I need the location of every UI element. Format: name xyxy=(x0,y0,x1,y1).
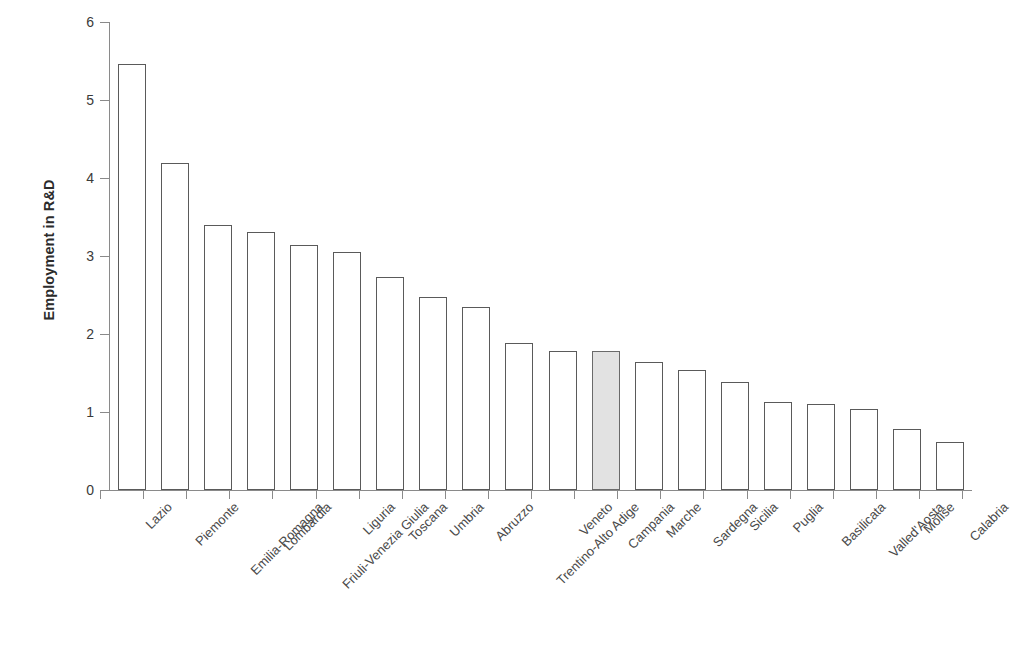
y-axis-tick xyxy=(100,178,109,179)
bar-puglia[interactable] xyxy=(764,402,792,490)
x-axis-tick xyxy=(747,491,748,499)
bar-calabria[interactable] xyxy=(936,442,964,490)
bar-sardegna[interactable] xyxy=(678,370,706,490)
x-axis-label-calabria: Calabria xyxy=(967,500,1010,543)
x-axis-tick xyxy=(186,491,187,499)
x-axis-tick xyxy=(445,491,446,499)
y-axis-tick xyxy=(100,256,109,257)
y-axis-tick xyxy=(100,100,109,101)
bar-campania[interactable] xyxy=(592,351,620,490)
chart-figure: Employment in R&D 0123456 LazioPiemonteE… xyxy=(0,0,1024,649)
plot-area xyxy=(110,22,972,490)
y-axis-tick-label: 4 xyxy=(70,171,94,185)
x-axis-label-puglia: Puglia xyxy=(791,500,826,535)
x-axis-tick xyxy=(229,491,230,499)
bar-emilia-romagna[interactable] xyxy=(204,225,232,490)
y-axis-tick xyxy=(100,334,109,335)
y-axis-tick xyxy=(100,490,109,491)
y-axis-tick-label: 0 xyxy=(70,483,94,497)
bar-piemonte[interactable] xyxy=(161,163,189,490)
y-axis-tick-label: 2 xyxy=(70,327,94,341)
y-axis-tick-label: 5 xyxy=(70,93,94,107)
x-axis-tick xyxy=(919,491,920,499)
y-axis-tick xyxy=(100,412,109,413)
bar-molise[interactable] xyxy=(893,429,921,490)
y-axis-title-text: Employment in R&D xyxy=(41,179,57,320)
bar-liguria[interactable] xyxy=(333,252,361,490)
x-axis-tick xyxy=(143,491,144,499)
x-axis-label-basilicata: Basilicata xyxy=(840,500,889,549)
x-axis-tick xyxy=(488,491,489,499)
y-axis-title: Employment in R&D xyxy=(38,0,60,500)
x-axis-tick xyxy=(876,491,877,499)
x-axis-tick xyxy=(272,491,273,499)
x-axis-tick xyxy=(531,491,532,499)
y-axis-tick-label: 6 xyxy=(70,15,94,29)
x-axis-tick xyxy=(574,491,575,499)
x-axis-tick xyxy=(402,491,403,499)
x-axis-label-abruzzo: Abruzzo xyxy=(492,500,535,543)
bar-trentino-alto-adige[interactable] xyxy=(505,343,533,490)
x-axis-label-umbria: Umbria xyxy=(448,500,487,539)
bar-toscana[interactable] xyxy=(376,277,404,490)
bar-friuli-venezia-giulia[interactable] xyxy=(290,245,318,490)
y-axis-tick xyxy=(100,22,109,23)
y-axis-tick-label: 3 xyxy=(70,249,94,263)
x-axis-label-lazio: Lazio xyxy=(143,500,174,531)
bar-abruzzo[interactable] xyxy=(462,307,490,490)
x-axis-tick xyxy=(100,491,101,499)
x-axis-tick xyxy=(660,491,661,499)
bar-valled-aosta[interactable] xyxy=(850,409,878,490)
x-axis-tick xyxy=(790,491,791,499)
x-axis-label-piemonte: Piemonte xyxy=(193,500,241,548)
bar-marche[interactable] xyxy=(635,362,663,490)
x-axis-tick xyxy=(703,491,704,499)
x-axis-line xyxy=(100,490,972,491)
x-axis-tick xyxy=(962,491,963,499)
bar-sicilia[interactable] xyxy=(721,382,749,490)
bar-umbria[interactable] xyxy=(419,297,447,490)
x-axis-tick xyxy=(359,491,360,499)
bar-basilicata[interactable] xyxy=(807,404,835,490)
bar-lazio[interactable] xyxy=(118,64,146,490)
x-axis-tick xyxy=(833,491,834,499)
x-axis-tick xyxy=(316,491,317,499)
x-axis-tick xyxy=(617,491,618,499)
bar-veneto[interactable] xyxy=(549,351,577,490)
bar-lombardia[interactable] xyxy=(247,232,275,490)
y-axis-tick-label: 1 xyxy=(70,405,94,419)
